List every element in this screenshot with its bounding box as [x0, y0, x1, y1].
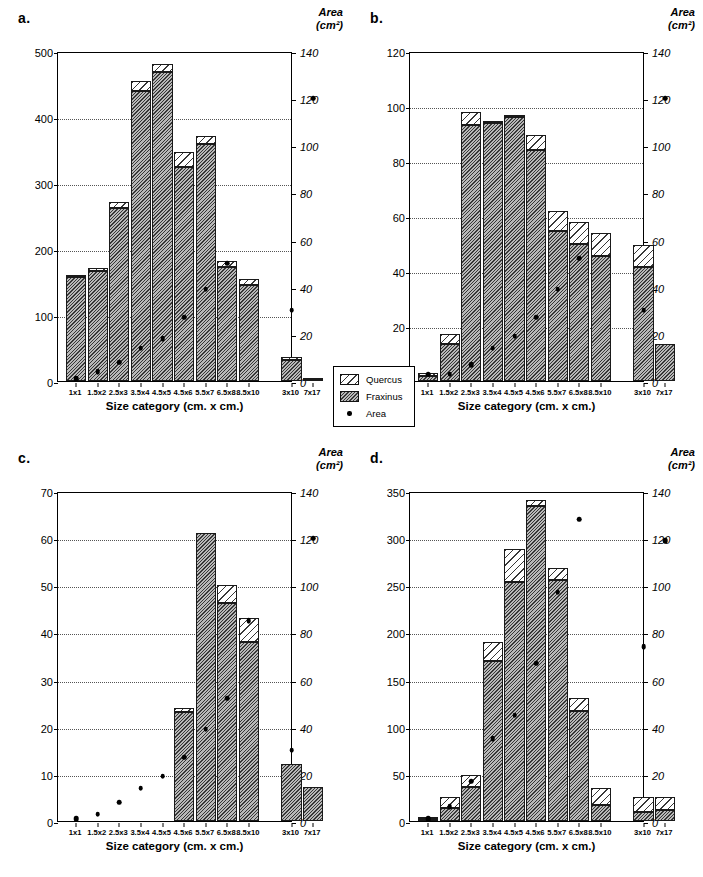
- x-tick-mark: [449, 383, 450, 387]
- y-tick-left: 100: [387, 102, 405, 114]
- area-marker: [577, 256, 582, 261]
- tick-mark: [406, 587, 410, 588]
- area-marker: [512, 334, 517, 339]
- bar-segment-fraxinus: [569, 244, 589, 382]
- tick-mark: [406, 273, 410, 274]
- area-marker: [469, 778, 474, 783]
- x-axis-title: Size category (cm. x cm.): [106, 840, 243, 852]
- tick-mark: [292, 289, 296, 290]
- x-axis-label-5.5x7: 5.5x7: [195, 388, 214, 397]
- y-tick-left: 20: [41, 723, 53, 735]
- x-tick-mark: [579, 823, 580, 827]
- area-marker: [641, 644, 646, 649]
- area-marker: [182, 755, 187, 760]
- x-axis-label-6.5x8: 6.5x8: [217, 388, 236, 397]
- bar-segment-fraxinus: [239, 285, 259, 381]
- y-tick-right: 40: [652, 723, 664, 735]
- x-axis-label-6.5x8: 6.5x8: [569, 828, 588, 837]
- bar-a-4.5x6: [174, 152, 194, 381]
- x-tick-mark: [119, 383, 120, 387]
- area-marker: [663, 95, 668, 100]
- tick-mark: [54, 493, 58, 494]
- y-tick-left: 30: [41, 676, 53, 688]
- x-axis-label-4.5x6: 4.5x6: [174, 388, 193, 397]
- x-tick-mark: [579, 383, 580, 387]
- x-tick-mark: [184, 823, 185, 827]
- x-tick-mark: [97, 823, 98, 827]
- x-tick-mark: [162, 383, 163, 387]
- y-tick-left: 100: [387, 723, 405, 735]
- bar-segment-fraxinus: [483, 661, 503, 821]
- tick-mark: [644, 729, 648, 730]
- x-axis-label-3x10: 3x10: [634, 828, 651, 837]
- tick-mark: [292, 540, 296, 541]
- legend-label: Quercus: [366, 374, 402, 385]
- right-axis-title-line2: (cm²): [625, 19, 695, 32]
- gridline: [410, 108, 643, 109]
- area-marker: [225, 696, 230, 701]
- legend-label: Area: [366, 408, 386, 419]
- tick-mark: [54, 682, 58, 683]
- tick-mark: [644, 383, 648, 384]
- bar-b-2.5x3: [461, 112, 481, 382]
- x-tick-mark: [536, 383, 537, 387]
- area-marker: [203, 286, 208, 291]
- fraxinus-hatch-icon: [340, 391, 359, 402]
- bar-a-8.5x10: [239, 279, 259, 381]
- y-tick-right: 40: [300, 723, 312, 735]
- tick-mark: [644, 682, 648, 683]
- bar-segment-quercus: [504, 549, 524, 582]
- bar-segment-quercus: [217, 585, 237, 603]
- bar-a-6.5x8: [217, 261, 237, 381]
- panel-c: c.Area(cm²)01020304050607002040608010012…: [0, 440, 351, 877]
- right-axis-title-line1: Area: [625, 6, 695, 19]
- bar-c-7x17: [303, 787, 323, 821]
- x-axis-label-4.5x6: 4.5x6: [526, 828, 545, 837]
- area-marker: [534, 660, 539, 665]
- area-marker: [95, 369, 100, 374]
- bar-segment-fraxinus: [633, 812, 653, 821]
- right-axis-title: Area(cm²): [625, 6, 695, 32]
- tick-mark: [54, 317, 58, 318]
- bar-segment-fraxinus: [174, 712, 194, 821]
- bar-segment-fraxinus: [281, 764, 301, 822]
- bar-c-8.5x10: [239, 618, 259, 821]
- bar-d-3x10: [633, 797, 653, 821]
- area-marker: [289, 308, 294, 313]
- y-tick-left: 50: [393, 770, 405, 782]
- x-tick-mark: [205, 383, 206, 387]
- bar-segment-fraxinus: [483, 123, 503, 382]
- bar-segment-quercus: [303, 378, 323, 381]
- tick-mark: [406, 729, 410, 730]
- x-tick-mark: [119, 823, 120, 827]
- bar-d-7x17: [655, 797, 675, 822]
- area-marker: [160, 774, 165, 779]
- bar-segment-fraxinus: [131, 91, 151, 381]
- x-axis-label-4.5x6: 4.5x6: [526, 388, 545, 397]
- area-marker: [225, 260, 230, 265]
- area-marker: [74, 816, 79, 821]
- y-tick-left: 300: [387, 534, 405, 546]
- x-tick-mark: [428, 383, 429, 387]
- tick-mark: [292, 242, 296, 243]
- area-marker: [447, 371, 452, 376]
- tick-mark: [54, 53, 58, 54]
- area-marker: [512, 712, 517, 717]
- y-tick-right: 20: [300, 330, 312, 342]
- panel-label-d: d.: [370, 450, 383, 466]
- y-tick-left: 200: [35, 245, 53, 257]
- area-marker: [641, 308, 646, 313]
- x-axis-label-3.5x4: 3.5x4: [130, 388, 149, 397]
- area-marker: [534, 315, 539, 320]
- plot-area-c: 010203040506070020406080100120140: [57, 492, 292, 822]
- x-axis-label-7x17: 7x17: [304, 828, 321, 837]
- x-tick-mark: [600, 383, 601, 387]
- y-tick-left: 60: [393, 212, 405, 224]
- right-axis-title: Area(cm²): [273, 446, 343, 472]
- x-axis-label-6.5x8: 6.5x8: [569, 388, 588, 397]
- right-axis-title-line1: Area: [625, 446, 695, 459]
- tick-mark: [644, 776, 648, 777]
- bar-a-2.5x3: [109, 202, 129, 381]
- bar-segment-fraxinus: [303, 787, 323, 821]
- legend-item-quercus: Quercus: [340, 372, 407, 387]
